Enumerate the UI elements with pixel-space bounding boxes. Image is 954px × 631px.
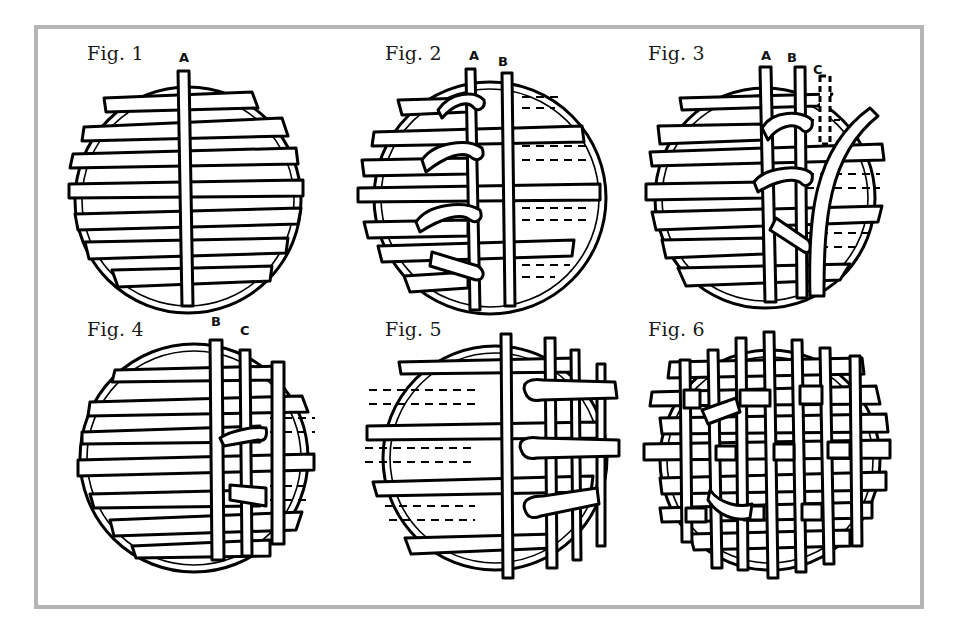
figure-5-drawing bbox=[365, 320, 645, 610]
figure-4-drawing bbox=[70, 320, 350, 610]
figure-3: Fig. 3 A B C bbox=[640, 40, 920, 330]
figure-1: Fig. 1 A bbox=[60, 40, 340, 330]
figure-4: Fig. 4 B C bbox=[70, 320, 350, 610]
figure-3-drawing bbox=[640, 40, 920, 330]
figure-2: Fig. 2 A B bbox=[350, 40, 630, 330]
figure-2-drawing bbox=[350, 40, 630, 330]
figure-5: Fig. 5 bbox=[365, 320, 645, 610]
figure-6-drawing bbox=[640, 320, 920, 610]
figure-1-drawing bbox=[60, 40, 340, 330]
figure-6: Fig. 6 bbox=[640, 320, 920, 610]
